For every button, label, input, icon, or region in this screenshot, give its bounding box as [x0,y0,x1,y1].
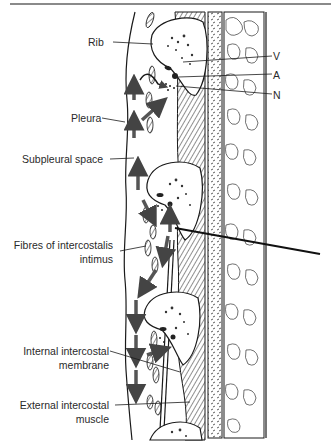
label-external-intercostal-line1: External intercostal [20,399,109,411]
label-rib: Rib [88,36,104,48]
label-fibres-intercostalis-line1: Fibres of intercostalis [14,239,113,251]
label-internal-intercostal-line2: membrane [59,359,109,371]
intercostal-diagram [0,0,331,448]
fat-layer [224,12,264,438]
label-nerve: N [273,89,281,101]
label-pleura: Pleura [71,112,101,124]
label-vein: V [273,50,280,62]
label-fibres-intercostalis-line2: intimus [80,253,113,265]
label-internal-intercostal-line1: Internal intercostal [23,345,109,357]
label-subpleural-space: Subpleural space [22,153,103,165]
label-external-intercostal-line2: muscle [76,413,109,425]
label-artery: A [273,69,280,81]
pleura-line [124,12,135,440]
